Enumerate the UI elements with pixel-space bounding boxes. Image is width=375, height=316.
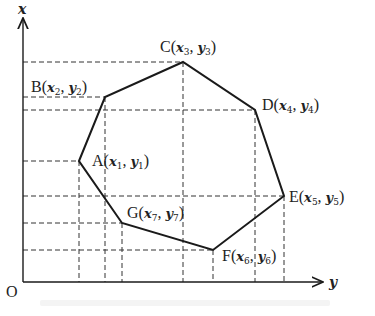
origin-label: O xyxy=(6,283,18,300)
vertex-label-A: A(x1, y1) xyxy=(92,152,149,171)
vertex-label-G: G(x7, y7) xyxy=(127,204,184,223)
vertex-label-B: B(x2, y2) xyxy=(31,78,87,97)
vertex-label-F: F(x6, y6) xyxy=(222,247,276,266)
x-axis-label: x xyxy=(17,1,27,17)
vertex-label-E: E(x5, y5) xyxy=(289,188,344,207)
vertex-label-C: C(x3, y3) xyxy=(160,38,216,57)
y-axis-label: y xyxy=(328,274,338,290)
vertex-label-D: D(x4, y4) xyxy=(262,96,319,115)
vertex-labels: A(x1, y1)B(x2, y2)C(x3, y3)D(x4, y4)E(x5… xyxy=(31,38,344,266)
projection-dashed-lines xyxy=(23,62,284,282)
faded-caption xyxy=(40,300,330,306)
convex-polygon-diagram: x y O A(x1, y1)B(x2, y2)C(x3, y3)D(x4, y… xyxy=(0,0,375,316)
